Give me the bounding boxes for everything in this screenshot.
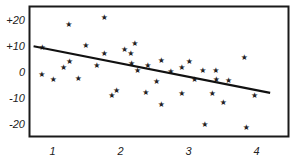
- y-tick-label: -20: [9, 118, 26, 130]
- scatter-chart: +20+100-10-20 1234 ★★★★★★★★★★★★★★★★★★★★★…: [0, 0, 295, 161]
- star-marker-icon: ★: [127, 49, 134, 58]
- star-marker-icon: ★: [50, 75, 57, 84]
- y-tick-label: -10: [9, 92, 26, 104]
- x-tick-label: 1: [50, 145, 56, 157]
- star-marker-icon: ★: [186, 57, 193, 66]
- y-tick-label: +20: [6, 14, 26, 26]
- star-marker-icon: ★: [220, 98, 227, 107]
- star-marker-icon: ★: [212, 66, 219, 75]
- star-marker-icon: ★: [153, 77, 160, 86]
- star-marker-icon: ★: [82, 41, 89, 50]
- star-marker-icon: ★: [101, 49, 108, 58]
- star-marker-icon: ★: [243, 123, 250, 132]
- star-marker-icon: ★: [158, 100, 165, 109]
- star-marker-icon: ★: [158, 56, 165, 65]
- star-marker-icon: ★: [209, 89, 216, 98]
- y-tick-label: 0: [19, 66, 26, 78]
- star-marker-icon: ★: [66, 57, 73, 66]
- y-axis-tick-labels: +20+100-10-20: [6, 14, 26, 129]
- star-marker-icon: ★: [251, 91, 258, 100]
- star-marker-icon: ★: [199, 66, 206, 75]
- star-marker-icon: ★: [75, 74, 82, 83]
- star-marker-icon: ★: [38, 70, 45, 79]
- star-marker-icon: ★: [93, 61, 100, 70]
- star-marker-icon: ★: [201, 120, 208, 129]
- star-marker-icon: ★: [142, 88, 149, 97]
- star-marker-icon: ★: [178, 63, 185, 72]
- star-marker-icon: ★: [131, 39, 138, 48]
- star-marker-icon: ★: [65, 20, 72, 29]
- x-tick-label: 4: [253, 145, 259, 157]
- y-tick-label: +10: [6, 40, 26, 52]
- star-marker-icon: ★: [241, 53, 248, 62]
- star-marker-icon: ★: [108, 91, 115, 100]
- star-marker-icon: ★: [60, 63, 67, 72]
- x-tick-label: 2: [117, 145, 124, 157]
- star-marker-icon: ★: [178, 89, 185, 98]
- star-marker-icon: ★: [101, 13, 108, 22]
- x-tick-label: 3: [186, 145, 193, 157]
- x-axis-tick-labels: 1234: [50, 145, 260, 157]
